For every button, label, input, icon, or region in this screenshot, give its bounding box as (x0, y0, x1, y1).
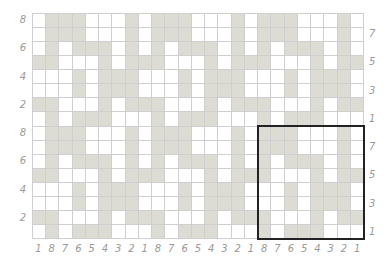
grid-cell[interactable] (139, 56, 152, 70)
grid-cell[interactable] (205, 70, 218, 84)
grid-cell[interactable] (33, 112, 46, 126)
grid-cell[interactable] (152, 56, 165, 70)
grid-cell[interactable] (351, 183, 364, 197)
grid-cell[interactable] (33, 141, 46, 155)
grid-cell[interactable] (192, 155, 205, 169)
grid-cell[interactable] (112, 98, 125, 112)
grid-cell[interactable] (86, 42, 99, 56)
grid-cell[interactable] (73, 155, 86, 169)
grid-cell[interactable] (285, 98, 298, 112)
grid-cell[interactable] (165, 98, 178, 112)
grid-cell[interactable] (285, 211, 298, 225)
grid-cell[interactable] (46, 183, 59, 197)
grid-cell[interactable] (192, 98, 205, 112)
grid-cell[interactable] (218, 56, 231, 70)
grid-cell[interactable] (205, 112, 218, 126)
grid-cell[interactable] (126, 28, 139, 42)
grid-cell[interactable] (73, 141, 86, 155)
grid-cell[interactable] (218, 197, 231, 211)
grid-cell[interactable] (258, 42, 271, 56)
grid-cell[interactable] (152, 98, 165, 112)
grid-cell[interactable] (165, 14, 178, 28)
grid-cell[interactable] (232, 141, 245, 155)
grid-cell[interactable] (152, 70, 165, 84)
grid-cell[interactable] (205, 169, 218, 183)
grid-cell[interactable] (311, 155, 324, 169)
grid-cell[interactable] (271, 155, 284, 169)
grid-cell[interactable] (324, 155, 337, 169)
grid-cell[interactable] (285, 183, 298, 197)
grid-cell[interactable] (218, 70, 231, 84)
grid-cell[interactable] (59, 197, 72, 211)
grid-cell[interactable] (99, 28, 112, 42)
grid-cell[interactable] (218, 14, 231, 28)
grid-cell[interactable] (59, 98, 72, 112)
grid-cell[interactable] (218, 155, 231, 169)
grid-cell[interactable] (73, 225, 86, 239)
grid-cell[interactable] (99, 14, 112, 28)
grid-cell[interactable] (298, 28, 311, 42)
grid-cell[interactable] (179, 225, 192, 239)
grid-cell[interactable] (338, 112, 351, 126)
grid-cell[interactable] (351, 169, 364, 183)
grid-cell[interactable] (86, 98, 99, 112)
grid-cell[interactable] (46, 127, 59, 141)
grid-cell[interactable] (86, 14, 99, 28)
grid-cell[interactable] (258, 155, 271, 169)
grid-cell[interactable] (126, 225, 139, 239)
grid-cell[interactable] (338, 98, 351, 112)
grid-cell[interactable] (245, 141, 258, 155)
grid-cell[interactable] (139, 70, 152, 84)
grid-cell[interactable] (311, 84, 324, 98)
grid-cell[interactable] (298, 183, 311, 197)
grid-cell[interactable] (285, 14, 298, 28)
grid-cell[interactable] (112, 56, 125, 70)
grid-cell[interactable] (33, 183, 46, 197)
grid-cell[interactable] (245, 211, 258, 225)
grid-cell[interactable] (139, 225, 152, 239)
grid-cell[interactable] (165, 225, 178, 239)
grid-cell[interactable] (351, 141, 364, 155)
grid-cell[interactable] (152, 84, 165, 98)
grid-cell[interactable] (338, 84, 351, 98)
grid-cell[interactable] (311, 70, 324, 84)
grid-cell[interactable] (126, 56, 139, 70)
grid-cell[interactable] (152, 169, 165, 183)
grid-cell[interactable] (126, 211, 139, 225)
grid-cell[interactable] (271, 225, 284, 239)
grid-cell[interactable] (73, 183, 86, 197)
grid-cell[interactable] (46, 225, 59, 239)
grid-cell[interactable] (338, 225, 351, 239)
grid-cell[interactable] (298, 70, 311, 84)
grid-cell[interactable] (311, 197, 324, 211)
grid-cell[interactable] (258, 225, 271, 239)
grid-cell[interactable] (59, 112, 72, 126)
grid-cell[interactable] (218, 225, 231, 239)
grid-cell[interactable] (245, 225, 258, 239)
grid-cell[interactable] (245, 98, 258, 112)
grid-cell[interactable] (338, 155, 351, 169)
grid-cell[interactable] (271, 42, 284, 56)
grid-cell[interactable] (59, 141, 72, 155)
grid-cell[interactable] (59, 70, 72, 84)
grid-cell[interactable] (165, 183, 178, 197)
grid-cell[interactable] (179, 127, 192, 141)
grid-cell[interactable] (298, 141, 311, 155)
grid-cell[interactable] (192, 70, 205, 84)
grid-cell[interactable] (165, 28, 178, 42)
grid-cell[interactable] (351, 70, 364, 84)
grid-cell[interactable] (33, 98, 46, 112)
grid-cell[interactable] (258, 169, 271, 183)
grid-cell[interactable] (165, 84, 178, 98)
grid-cell[interactable] (258, 211, 271, 225)
grid-cell[interactable] (99, 70, 112, 84)
grid-cell[interactable] (179, 141, 192, 155)
grid-cell[interactable] (46, 84, 59, 98)
grid-cell[interactable] (218, 211, 231, 225)
grid-cell[interactable] (298, 84, 311, 98)
grid-cell[interactable] (338, 14, 351, 28)
grid-cell[interactable] (258, 141, 271, 155)
grid-cell[interactable] (311, 127, 324, 141)
grid-cell[interactable] (73, 56, 86, 70)
grid-cell[interactable] (245, 84, 258, 98)
